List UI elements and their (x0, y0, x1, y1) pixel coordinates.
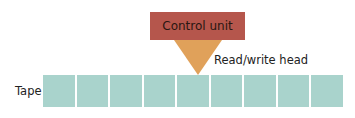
read-write-head-label: Read/write head (214, 53, 308, 67)
control-unit-box: Control unit (150, 12, 245, 40)
tape (43, 75, 343, 107)
turing-machine-diagram: Control unit Read/write head Tape (0, 0, 355, 118)
tape-cell (278, 75, 310, 107)
tape-cell (77, 75, 109, 107)
tape-cell (211, 75, 243, 107)
tape-cell (177, 75, 209, 107)
tape-cell (144, 75, 176, 107)
control-unit-label: Control unit (162, 19, 232, 33)
tape-cell (110, 75, 142, 107)
tape-cell (244, 75, 276, 107)
tape-label: Tape (15, 84, 42, 98)
tape-cell (43, 75, 75, 107)
tape-cell (311, 75, 343, 107)
